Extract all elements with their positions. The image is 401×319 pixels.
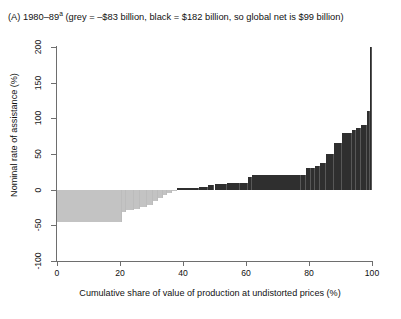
y-tick-label: 150	[30, 78, 46, 88]
negative-bar	[57, 190, 122, 222]
y-tick-mark	[51, 190, 56, 191]
x-tick-mark	[246, 261, 247, 266]
negative-bar	[172, 190, 177, 191]
positive-bar	[326, 154, 334, 190]
y-tick-label-text: -100	[33, 244, 43, 278]
positive-bar	[227, 183, 240, 189]
x-tick-mark	[120, 261, 121, 266]
y-tick-label: 200	[30, 42, 46, 52]
x-tick-mark	[372, 261, 373, 266]
positive-bar	[334, 143, 342, 189]
x-tick-mark	[57, 261, 58, 266]
x-tick-label: 20	[106, 268, 134, 278]
negative-bar	[126, 190, 134, 211]
y-tick-label: -50	[30, 220, 46, 230]
x-tick-label: 0	[43, 268, 71, 278]
x-axis-label: Cumulative share of value of production …	[30, 288, 390, 298]
x-tick-label: 80	[295, 268, 323, 278]
y-axis-label-text: Nominal rate of assistance (%)	[8, 70, 20, 200]
y-tick-mark	[51, 83, 56, 84]
positive-bar	[370, 47, 372, 190]
y-tick-label-text: -50	[33, 208, 43, 242]
y-tick-mark	[51, 225, 56, 226]
x-tick-label: 100	[358, 268, 386, 278]
chart-title-rest: (grey = –$83 billion, black = $182 billi…	[63, 12, 344, 22]
y-tick-label: 0	[30, 185, 46, 195]
y-tick-label-text: 50	[33, 137, 43, 171]
y-tick-label: -100	[30, 256, 46, 266]
y-tick-label: 100	[30, 113, 46, 123]
chart-title-main: (A) 1980–89	[8, 12, 59, 22]
positive-bar	[342, 133, 351, 190]
x-tick-label: 60	[232, 268, 260, 278]
y-tick-label-text: 200	[33, 30, 43, 64]
x-tick-mark	[183, 261, 184, 266]
positive-bar	[252, 175, 301, 189]
y-tick-mark	[51, 154, 56, 155]
positive-bar	[199, 187, 208, 190]
plot-area	[57, 47, 372, 261]
chart-figure: (A) 1980–89a (grey = –$83 billion, black…	[0, 0, 401, 319]
y-tick-mark	[51, 118, 56, 119]
y-tick-label-text: 0	[33, 173, 43, 207]
x-tick-mark	[309, 261, 310, 266]
x-tick-label: 40	[169, 268, 197, 278]
positive-bar	[177, 188, 199, 190]
positive-bar	[215, 184, 228, 190]
x-axis-line	[56, 261, 373, 262]
y-tick-label-text: 150	[33, 66, 43, 100]
chart-title: (A) 1980–89a (grey = –$83 billion, black…	[8, 8, 398, 23]
y-tick-mark	[51, 261, 56, 262]
y-axis-label: Nominal rate of assistance (%)	[8, 70, 20, 200]
y-tick-mark	[51, 47, 56, 48]
y-tick-label-text: 100	[33, 101, 43, 135]
positive-bar	[240, 183, 248, 190]
y-tick-label: 50	[30, 149, 46, 159]
